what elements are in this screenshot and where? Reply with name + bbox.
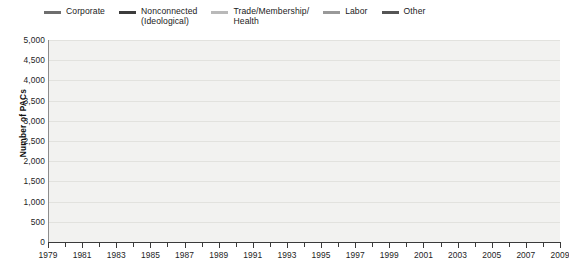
x-tick-mark	[492, 242, 493, 248]
x-tick-label: 2003	[448, 250, 467, 260]
x-tick-mark	[202, 242, 203, 247]
x-tick-label: 1987	[175, 250, 194, 260]
x-tick-label: 1983	[107, 250, 126, 260]
legend-swatch-icon	[44, 11, 61, 14]
legend-label: Corporate	[66, 6, 105, 16]
x-tick-mark	[253, 242, 254, 248]
x-tick-label: 2001	[414, 250, 433, 260]
grid-line	[48, 181, 560, 182]
x-tick-mark	[270, 242, 271, 247]
x-tick-label: 2007	[516, 250, 535, 260]
x-tick-mark	[321, 242, 322, 248]
x-tick-label: 1993	[277, 250, 296, 260]
x-tick-mark	[543, 242, 544, 247]
y-tick-label: 1,500	[5, 176, 45, 186]
x-tick-mark	[116, 242, 117, 248]
grid-line	[48, 101, 560, 102]
x-tick-mark	[509, 242, 510, 247]
x-tick-mark	[406, 242, 407, 247]
y-tick-label: 2,500	[5, 136, 45, 146]
grid-line	[48, 141, 560, 142]
x-tick-mark	[338, 242, 339, 247]
x-tick-mark	[526, 242, 527, 248]
x-tick-mark	[475, 242, 476, 247]
grid-line	[48, 80, 560, 81]
x-tick-mark	[287, 242, 288, 248]
x-tick-mark	[355, 242, 356, 248]
legend-label: Other	[404, 6, 426, 16]
grid-line	[48, 121, 560, 122]
y-tick-label: 1,000	[5, 197, 45, 207]
x-tick-label: 1999	[380, 250, 399, 260]
legend-swatch-icon	[382, 11, 399, 14]
legend-label: Nonconnected (Ideological)	[141, 6, 197, 26]
x-tick-mark	[185, 242, 186, 248]
grid-line	[48, 60, 560, 61]
x-tick-mark	[48, 242, 49, 248]
x-tick-mark	[458, 242, 459, 248]
x-tick-mark	[65, 242, 66, 247]
x-tick-mark	[389, 242, 390, 248]
legend-item-labor[interactable]: Labor	[323, 6, 367, 16]
x-tick-mark	[150, 242, 151, 248]
x-tick-label: 2005	[482, 250, 501, 260]
grid-line	[48, 161, 560, 162]
legend-label: Labor	[345, 6, 367, 16]
legend-swatch-icon	[323, 11, 340, 14]
y-tick-label: 3,500	[5, 96, 45, 106]
x-tick-label: 1981	[73, 250, 92, 260]
x-tick-mark	[423, 242, 424, 248]
x-tick-label: 1997	[346, 250, 365, 260]
x-tick-label: 1995	[312, 250, 331, 260]
plot-area	[48, 40, 560, 242]
grid-line	[48, 202, 560, 203]
x-tick-mark	[560, 242, 561, 248]
legend-item-trade-membership[interactable]: Trade/Membership/ Health	[211, 6, 309, 26]
y-axis-tick-labels: 5,0004,5004,0003,5003,0002,5002,0001,500…	[0, 0, 45, 268]
chart-legend: CorporateNonconnected (Ideological)Trade…	[44, 6, 564, 32]
x-tick-mark	[167, 242, 168, 247]
y-tick-label: 4,000	[5, 75, 45, 85]
x-tick-mark	[372, 242, 373, 247]
grid-line	[48, 222, 560, 223]
y-tick-label: 0	[5, 237, 45, 247]
pac-line-chart: CorporateNonconnected (Ideological)Trade…	[0, 0, 569, 268]
y-tick-label: 5,000	[5, 35, 45, 45]
x-tick-mark	[441, 242, 442, 247]
x-tick-label: 2009	[551, 250, 569, 260]
legend-swatch-icon	[211, 11, 228, 14]
legend-swatch-icon	[119, 11, 136, 14]
x-tick-mark	[99, 242, 100, 247]
x-tick-mark	[304, 242, 305, 247]
grid-line	[48, 40, 560, 41]
legend-label: Trade/Membership/ Health	[233, 6, 309, 26]
x-tick-label: 1985	[141, 250, 160, 260]
legend-item-nonconnected[interactable]: Nonconnected (Ideological)	[119, 6, 197, 26]
y-axis-line	[48, 40, 49, 243]
y-tick-label: 500	[5, 217, 45, 227]
y-tick-label: 3,000	[5, 116, 45, 126]
x-tick-label: 1991	[243, 250, 262, 260]
legend-item-corporate[interactable]: Corporate	[44, 6, 105, 16]
legend-item-other[interactable]: Other	[382, 6, 426, 16]
x-tick-mark	[82, 242, 83, 248]
y-tick-label: 2,000	[5, 156, 45, 166]
y-tick-label: 4,500	[5, 55, 45, 65]
x-tick-label: 1979	[39, 250, 58, 260]
x-tick-mark	[236, 242, 237, 247]
x-tick-mark	[133, 242, 134, 247]
x-tick-mark	[219, 242, 220, 248]
x-tick-label: 1989	[209, 250, 228, 260]
